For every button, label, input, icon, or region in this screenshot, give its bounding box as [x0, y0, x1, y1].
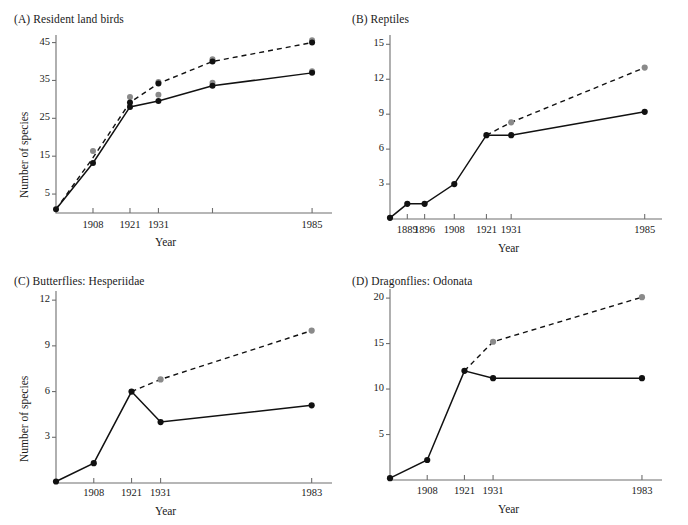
panel-b-xaxis-label: Year: [498, 242, 519, 254]
panel-b-xtick-label: 1931: [495, 224, 527, 235]
panel-b-xtick-label: 1908: [438, 224, 470, 235]
panel-a-xtick-label: 1908: [77, 219, 109, 230]
panel-a-xtick-label: 1985: [296, 219, 328, 230]
panel-d-ytick-label: 15: [362, 337, 384, 348]
panel-a-plot: [0, 0, 688, 525]
panel-d-title: (D) Dragonflies: Odonata: [352, 275, 473, 287]
species-accumulation-figure: (A) Resident land birds51525354519081921…: [0, 0, 688, 525]
panel-a-ytick-label: 45: [28, 36, 50, 47]
panel-c-xtick-label: 1921: [116, 487, 148, 498]
panel-d-ytick-label: 20: [362, 291, 384, 302]
panel-d-xtick-label: 1908: [411, 485, 443, 496]
panel-a-ytick-label: 5: [28, 187, 50, 198]
panel-c-ytick-label: 3: [28, 430, 50, 441]
panel-a-xaxis-label: Year: [155, 236, 176, 248]
panel-c-ytick-label: 6: [28, 385, 50, 396]
panel-c-title: (C) Butterflies: Hesperiidae: [14, 275, 145, 287]
panel-c-ytick-label: 12: [28, 293, 50, 304]
panel-a-xtick-label: 1931: [142, 219, 174, 230]
panel-a-ytick-label: 35: [28, 73, 50, 84]
panel-c-plot: [0, 0, 688, 525]
panel-c-ytick-label: 9: [28, 339, 50, 350]
panel-b-xtick-label: 1896: [409, 224, 441, 235]
panel-d-plot: [0, 0, 688, 525]
panel-b-plot: [0, 0, 688, 525]
panel-b-ytick-label: 12: [362, 72, 384, 83]
panel-b-ytick-label: 6: [362, 142, 384, 153]
panel-a-yaxis-label: Number of species: [18, 112, 30, 198]
panel-b-ytick-label: 9: [362, 107, 384, 118]
panel-d-ytick-label: 5: [362, 428, 384, 439]
panel-d-xaxis-label: Year: [498, 503, 519, 515]
panel-c-xtick-label: 1908: [78, 487, 110, 498]
panel-d-xtick-label: 1921: [448, 485, 480, 496]
panel-c-xaxis-label: Year: [155, 505, 176, 517]
panel-a-xtick-label: 1921: [114, 219, 146, 230]
panel-b-xtick-label: 1985: [629, 224, 661, 235]
panel-c-xtick-label: 1931: [145, 487, 177, 498]
panel-a-ytick-label: 25: [28, 111, 50, 122]
panel-d-xtick-label: 1931: [477, 485, 509, 496]
panel-a-ytick-label: 15: [28, 149, 50, 160]
panel-d-xtick-label: 1983: [626, 485, 658, 496]
panel-d-ytick-label: 10: [362, 382, 384, 393]
panel-a-title: (A) Resident land birds: [14, 13, 124, 25]
panel-c-yaxis-label: Number of species: [18, 376, 30, 462]
panel-b-ytick-label: 15: [362, 37, 384, 48]
panel-c-xtick-label: 1983: [296, 487, 328, 498]
panel-b-ytick-label: 3: [362, 177, 384, 188]
panel-b-title: (B) Reptiles: [352, 13, 409, 25]
